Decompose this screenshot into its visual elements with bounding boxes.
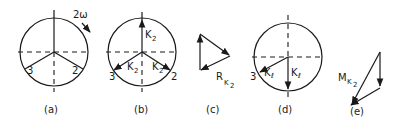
- panel-c: R K 2 (c): [200, 34, 234, 115]
- svg-text:K: K: [127, 61, 134, 72]
- svg-text:K: K: [291, 67, 298, 78]
- diagram-canvas: 3 2 2ω (a) K 2 K 2 K 2 3 2 (b) R K 2 (c): [0, 0, 401, 126]
- svg-text:3: 3: [109, 71, 115, 82]
- svg-text:K: K: [145, 29, 152, 40]
- svg-text:K: K: [347, 78, 352, 86]
- svg-text:2: 2: [159, 67, 163, 75]
- svg-text:2: 2: [134, 67, 138, 75]
- svg-text:ℓ: ℓ: [297, 72, 301, 80]
- panel-d: K ℓ K ℓ 3 (d): [250, 15, 324, 115]
- rotation-arrow-icon: [82, 23, 90, 32]
- caption-a: (a): [44, 104, 58, 115]
- point-2-label: 2: [72, 65, 78, 76]
- svg-text:2: 2: [353, 81, 357, 89]
- blade-2-a: [54, 52, 83, 69]
- svg-text:2: 2: [171, 71, 177, 82]
- caption-d: (d): [278, 104, 292, 115]
- svg-text:K: K: [264, 67, 271, 78]
- svg-text:M: M: [338, 72, 347, 83]
- svg-text:R: R: [216, 71, 223, 82]
- resultant-vector: [201, 56, 230, 70]
- svg-text:K: K: [152, 61, 159, 72]
- caption-e: (e): [350, 106, 364, 117]
- caption-b: (b): [134, 104, 148, 115]
- panel-a: 3 2 2ω (a): [18, 9, 90, 115]
- point-3-label: 3: [27, 65, 33, 76]
- svg-text:ℓ: ℓ: [270, 72, 274, 80]
- panel-b: K 2 K 2 K 2 3 2 (b): [106, 12, 178, 115]
- svg-text:2: 2: [152, 35, 156, 43]
- panel-e: M K 2 (e): [338, 52, 380, 117]
- svg-text:2: 2: [230, 82, 234, 90]
- rotation-label: 2ω: [73, 9, 88, 20]
- caption-c: (c): [206, 104, 219, 115]
- svg-text:3: 3: [250, 71, 256, 82]
- svg-text:K: K: [224, 79, 229, 87]
